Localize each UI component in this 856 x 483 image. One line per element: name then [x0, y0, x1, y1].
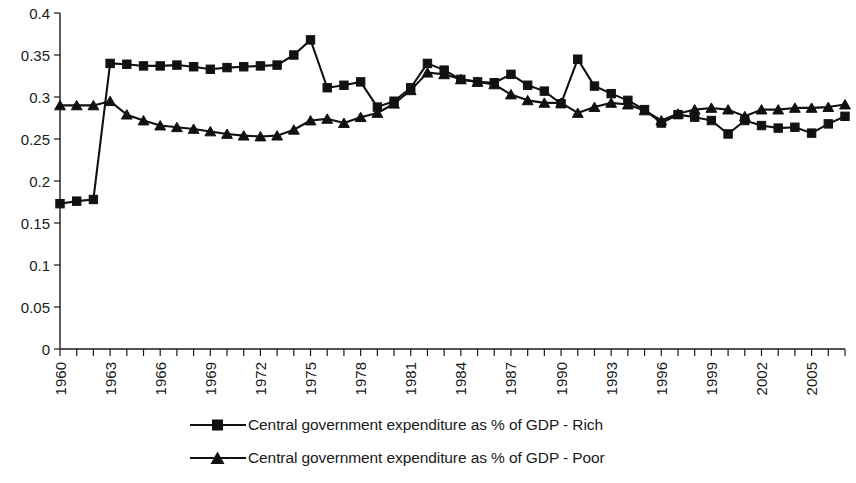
legend-label-rich: Central government expenditure as % of G…: [248, 416, 603, 434]
data-point-marker: [724, 130, 732, 138]
data-point-marker: [423, 59, 431, 67]
data-point-marker: [123, 60, 131, 68]
y-axis-tick-label: 0.25: [21, 131, 50, 148]
data-point-marker: [356, 78, 364, 86]
data-point-marker: [323, 84, 331, 92]
x-axis-tick-label: 1975: [302, 362, 319, 395]
y-axis-tick-label: 0.4: [29, 5, 50, 22]
legend-marker-square-icon: [188, 416, 248, 434]
data-point-marker: [607, 89, 615, 97]
x-axis-tick-label: 1972: [252, 362, 269, 395]
legend-item-poor: Central government expenditure as % of G…: [0, 441, 856, 474]
data-point-marker: [590, 82, 598, 90]
chart-container: 00.050.10.150.20.250.30.350.419601963196…: [0, 0, 856, 483]
data-point-marker: [288, 125, 299, 134]
data-point-marker: [139, 62, 147, 70]
legend-item-rich: Central government expenditure as % of G…: [0, 408, 856, 441]
data-point-marker: [256, 62, 264, 70]
data-point-marker: [240, 63, 248, 71]
y-axis-tick-label: 0.2: [29, 173, 50, 190]
x-axis-tick-label: 1978: [352, 362, 369, 395]
data-point-marker: [206, 65, 214, 73]
x-axis-tick-label: 1987: [502, 362, 519, 395]
data-point-marker: [574, 55, 582, 63]
x-axis-tick-label: 2005: [803, 362, 820, 395]
data-point-marker: [841, 112, 849, 120]
data-point-marker: [340, 81, 348, 89]
y-axis-tick-label: 0.35: [21, 47, 50, 64]
data-point-marker: [56, 199, 64, 207]
data-point-marker: [73, 197, 81, 205]
data-point-marker: [290, 51, 298, 59]
y-axis-tick-label: 0: [42, 341, 50, 358]
data-point-marker: [757, 121, 765, 129]
line-chart-plot: 00.050.10.150.20.250.30.350.419601963196…: [0, 0, 856, 408]
chart-legend: Central government expenditure as % of G…: [0, 408, 856, 474]
x-axis-tick-label: 2002: [753, 362, 770, 395]
legend-label-poor: Central government expenditure as % of G…: [248, 449, 605, 467]
data-point-marker: [824, 120, 832, 128]
data-point-marker: [807, 129, 815, 137]
data-point-marker: [189, 63, 197, 71]
legend-marker-triangle-icon: [188, 449, 248, 467]
y-axis-tick-label: 0.05: [21, 299, 50, 316]
data-point-marker: [173, 61, 181, 69]
y-axis-tick-label: 0.15: [21, 215, 50, 232]
data-point-marker: [774, 124, 782, 132]
x-axis-tick-label: 1999: [703, 362, 720, 395]
data-point-marker: [506, 89, 517, 98]
data-point-marker: [273, 61, 281, 69]
data-point-marker: [523, 81, 531, 89]
data-point-marker: [156, 62, 164, 70]
data-point-marker: [106, 59, 114, 67]
x-axis-tick-label: 1996: [653, 362, 670, 395]
x-axis-tick-label: 1981: [402, 362, 419, 395]
x-axis-tick-label: 1966: [152, 362, 169, 395]
x-axis-tick-label: 1984: [452, 362, 469, 395]
x-axis-tick-label: 1960: [52, 362, 69, 395]
x-axis-tick-label: 1990: [553, 362, 570, 395]
data-point-marker: [89, 195, 97, 203]
x-axis-tick-label: 1993: [603, 362, 620, 395]
data-point-marker: [507, 70, 515, 78]
data-point-marker: [306, 36, 314, 44]
y-axis-tick-label: 0.1: [29, 257, 50, 274]
x-axis-tick-label: 1969: [202, 362, 219, 395]
data-point-marker: [223, 63, 231, 71]
data-point-marker: [707, 116, 715, 124]
x-axis-tick-label: 1963: [102, 362, 119, 395]
data-point-marker: [540, 87, 548, 95]
y-axis-tick-label: 0.3: [29, 89, 50, 106]
data-point-marker: [791, 123, 799, 131]
